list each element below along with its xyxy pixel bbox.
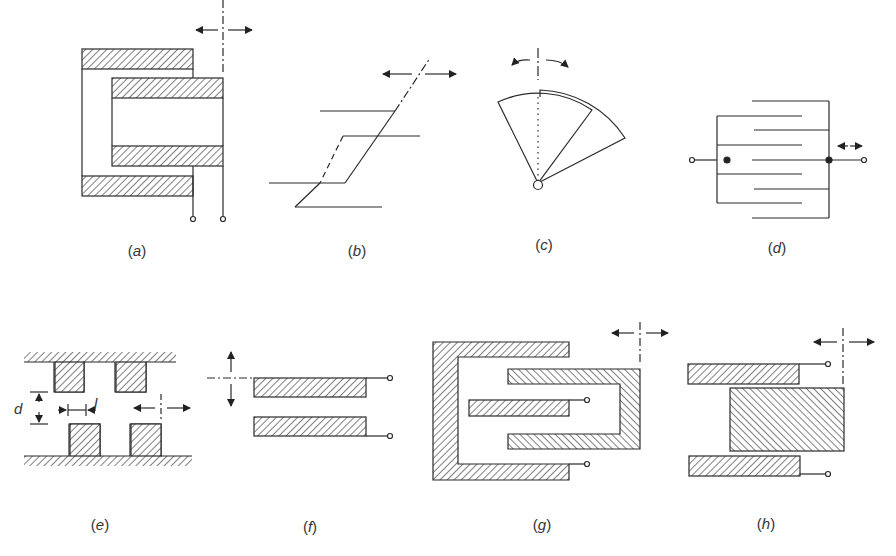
caption-a: (a) (128, 242, 146, 259)
caption-f: (f) (303, 518, 317, 535)
caption-e: (e) (91, 516, 109, 533)
caption-d: (d) (768, 239, 786, 256)
panel-h (688, 328, 874, 477)
caption-h: (h) (757, 515, 775, 532)
dimension-d-label: d (14, 400, 23, 417)
dimension-l-label: l (94, 395, 98, 412)
caption-g: (g) (533, 516, 551, 533)
panel-d (690, 101, 867, 218)
panel-a (82, 0, 252, 222)
panel-e (24, 352, 192, 466)
sensor-configurations-figure: d l (a) (b) (c) (d) (e) (f) (g) (h) (0, 0, 896, 556)
panel-c (498, 48, 625, 190)
panel-b (269, 58, 456, 207)
panel-f (207, 352, 393, 439)
panel-g (433, 322, 668, 480)
caption-b: (b) (348, 242, 366, 259)
caption-c: (c) (535, 236, 553, 253)
